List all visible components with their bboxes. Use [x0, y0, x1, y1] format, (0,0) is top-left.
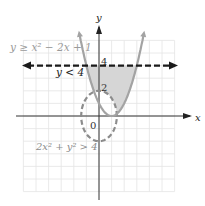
y-axis-label: y [95, 12, 102, 23]
ellipse-label: 2x² + y² > 4 [35, 141, 98, 152]
line-label: y < 4 [55, 66, 84, 78]
chart-canvas: y ≥ x² − 2x + 1 y < 4 2x² + y² > 4 x y 0… [0, 0, 205, 206]
x-axis-label: x [195, 112, 201, 123]
tick-label-4: 4 [101, 56, 107, 67]
parabola-label: y ≥ x² − 2x + 1 [9, 41, 92, 53]
inequality-graph: y ≥ x² − 2x + 1 y < 4 2x² + y² > 4 x y 0… [0, 0, 205, 206]
tick-label-2: 2 [101, 82, 107, 93]
origin-label: 0 [90, 120, 96, 131]
